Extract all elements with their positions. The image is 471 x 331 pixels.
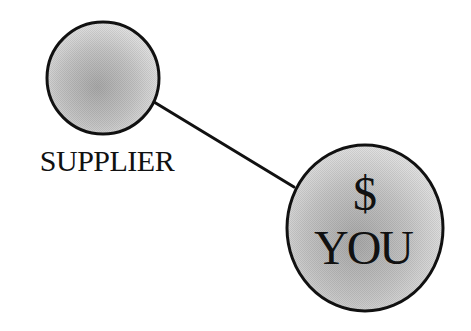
dollar-sign-icon: $ bbox=[325, 170, 405, 218]
supplier-circle-texture bbox=[49, 24, 158, 133]
supplier-label: SUPPLIER bbox=[27, 146, 187, 176]
supplier-node bbox=[47, 22, 159, 134]
you-label: YOU bbox=[305, 224, 421, 272]
